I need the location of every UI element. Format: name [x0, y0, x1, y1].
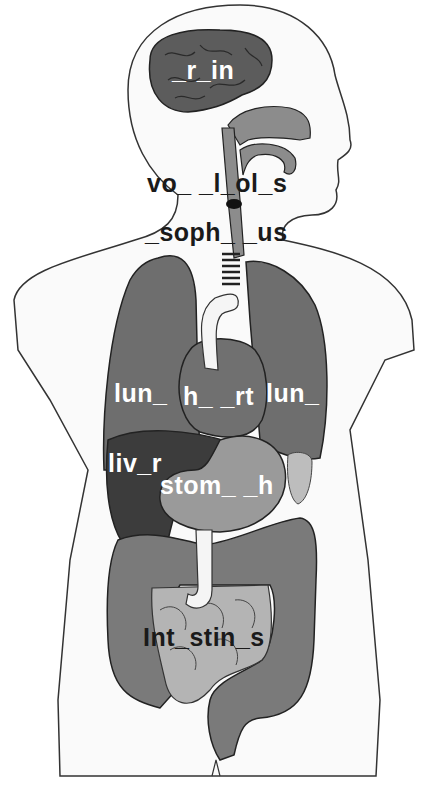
- larynx: [226, 199, 242, 209]
- label-vocal-cords: vo_ _l_ol_s: [147, 171, 287, 196]
- label-stomach: stom_ _h: [160, 473, 274, 498]
- label-liver: liv_r: [108, 451, 162, 476]
- label-intestines: Int_stin_s: [143, 625, 265, 650]
- label-heart: h_ _rt: [183, 384, 254, 409]
- label-brain: _r_in: [172, 58, 234, 83]
- label-esophagus: _soph_ _us: [145, 220, 288, 245]
- label-lung-left: lun_: [114, 381, 167, 406]
- label-lung-right: lun_: [266, 381, 319, 406]
